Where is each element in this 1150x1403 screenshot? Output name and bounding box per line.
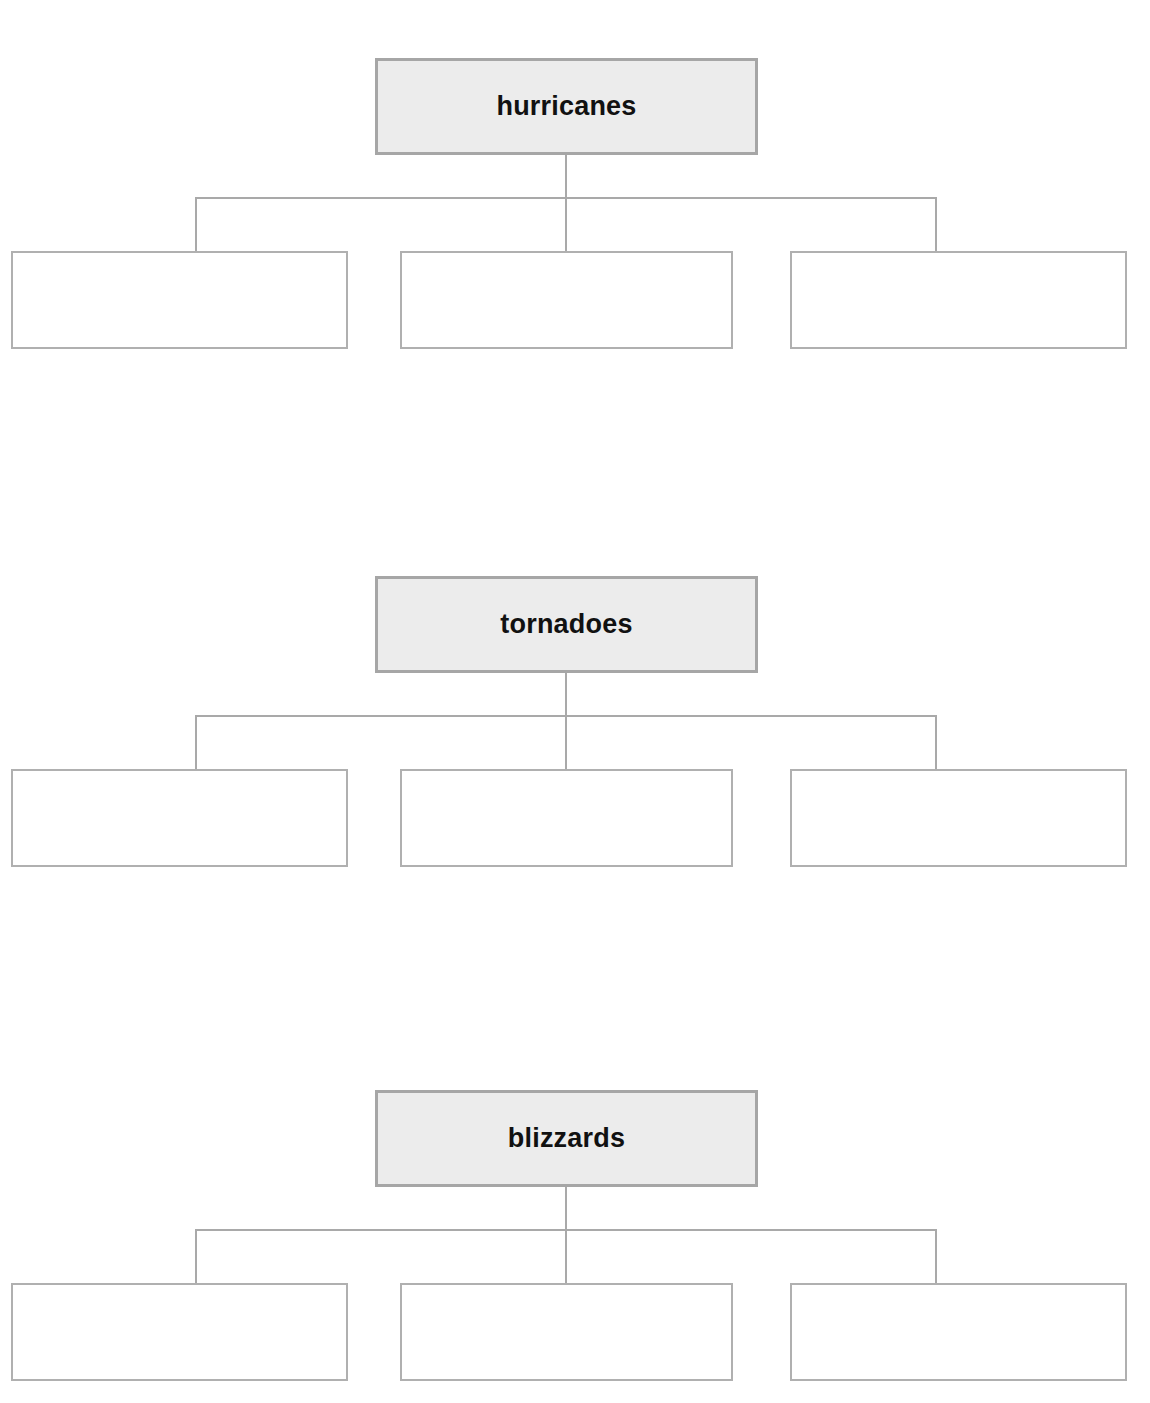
connector-drop-left	[195, 197, 197, 251]
connector-drop-center	[565, 715, 567, 769]
connector-drop-left	[195, 1229, 197, 1283]
answer-box-3[interactable]	[790, 769, 1127, 867]
answer-box-1[interactable]	[11, 1283, 348, 1381]
connector-drop-center	[565, 197, 567, 251]
answer-box-3[interactable]	[790, 1283, 1127, 1381]
connector-drop-right	[935, 197, 937, 251]
answer-box-1[interactable]	[11, 769, 348, 867]
connector-drop-right	[935, 1229, 937, 1283]
answer-box-2[interactable]	[400, 769, 733, 867]
connector-stem	[565, 155, 567, 197]
topic-label: tornadoes	[500, 611, 632, 638]
topic-box-hurricanes[interactable]: hurricanes	[375, 58, 758, 155]
connector-drop-center	[565, 1229, 567, 1283]
connector-stem	[565, 1187, 567, 1229]
topic-box-tornadoes[interactable]: tornadoes	[375, 576, 758, 673]
answer-box-1[interactable]	[11, 251, 348, 349]
topic-label: hurricanes	[496, 93, 636, 120]
connector-drop-right	[935, 715, 937, 769]
worksheet-canvas: hurricanes tornadoes	[0, 0, 1150, 1403]
topic-label: blizzards	[508, 1125, 625, 1152]
answer-box-2[interactable]	[400, 251, 733, 349]
connector-stem	[565, 673, 567, 715]
connector-drop-left	[195, 715, 197, 769]
answer-box-2[interactable]	[400, 1283, 733, 1381]
topic-box-blizzards[interactable]: blizzards	[375, 1090, 758, 1187]
answer-box-3[interactable]	[790, 251, 1127, 349]
